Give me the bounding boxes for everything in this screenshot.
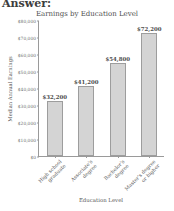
- bar-value-label: $54,800: [106, 56, 130, 62]
- bar: $54,800: [110, 63, 126, 156]
- x-tick-mark: [118, 156, 119, 158]
- chart-title: Earnings by Education Level: [0, 10, 174, 18]
- y-tick-mark: [37, 123, 39, 124]
- y-axis-title-wrapper: Median Annual Earnings: [8, 0, 9, 211]
- y-tick-label: $70,000: [18, 36, 39, 41]
- y-tick-mark: [37, 21, 39, 22]
- x-tick-label: Bachelor'sdegree: [103, 159, 130, 186]
- y-tick-mark: [37, 89, 39, 90]
- bar-value-label: $32,200: [43, 94, 67, 100]
- y-tick-label: $50,000: [18, 70, 39, 75]
- y-tick-label: $30,000: [18, 104, 39, 109]
- y-tick-mark: [37, 106, 39, 107]
- x-tick-label: Associate'sdegree: [70, 159, 98, 187]
- y-tick-mark: [37, 55, 39, 56]
- x-tick-mark: [86, 156, 87, 158]
- y-tick-mark: [37, 72, 39, 73]
- y-tick-mark: [37, 38, 39, 39]
- y-tick-label: $80,000: [18, 19, 39, 24]
- y-axis-title: Median Annual Earnings: [7, 56, 13, 121]
- y-tick-label: $20,000: [18, 121, 39, 126]
- x-axis-title: Education Level: [38, 197, 164, 203]
- plot-area: $0$10,000$20,000$30,000$40,000$50,000$60…: [38, 21, 164, 157]
- bar: $32,200: [47, 101, 63, 156]
- x-tick-mark: [55, 156, 56, 158]
- y-tick-label: $10,000: [18, 138, 39, 143]
- y-tick-mark: [37, 140, 39, 141]
- bar: $72,200: [141, 33, 157, 156]
- bar-chart-figure: Earnings by Education Level Median Annua…: [0, 0, 174, 211]
- y-tick-label: $60,000: [18, 53, 39, 58]
- y-tick-label: $40,000: [18, 87, 39, 92]
- x-tick-label: High schoolgraduate: [37, 159, 66, 188]
- x-tick-mark: [149, 156, 150, 158]
- bar-value-label: $72,200: [137, 26, 161, 32]
- bar-value-label: $41,200: [74, 79, 98, 85]
- x-tick-label: Master's degreeor higher: [124, 159, 161, 196]
- y-tick-mark: [37, 157, 39, 158]
- bar: $41,200: [78, 86, 94, 156]
